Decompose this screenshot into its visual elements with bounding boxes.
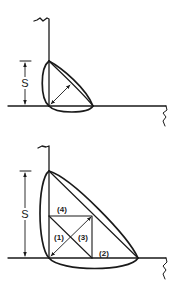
region-label-3: (3) [78, 233, 88, 242]
bottom-break-line-icon [163, 258, 167, 279]
top-weld-left-bulge [42, 61, 49, 106]
bottom-dimension-label: S [21, 208, 28, 220]
top-weld-figure [8, 18, 167, 126]
bottom-weld-left-bulge [40, 171, 49, 258]
region-label-1: (1) [54, 233, 64, 242]
region-label-2: (2) [99, 249, 109, 258]
top-weld-bottom-bulge [49, 106, 93, 112]
region-label-4: (4) [57, 205, 67, 214]
bottom-weld-figure [8, 146, 167, 279]
top-throat-arrow-icon [51, 85, 70, 104]
fillet-weld-diagram: S S (4) (1) (3) (2) [0, 0, 180, 292]
top-dimension-label: S [21, 77, 28, 89]
bottom-weld-bottom-bulge [49, 258, 138, 269]
top-break-line-icon [163, 106, 167, 126]
